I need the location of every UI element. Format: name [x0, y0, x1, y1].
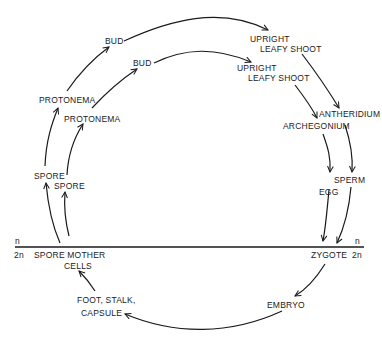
label-archegonium: ARCHEGONIUM	[283, 121, 350, 131]
cycle-arrows	[0, 0, 382, 340]
label-antheridium: ANTHERIDIUM	[319, 109, 380, 119]
haploid-label-right: n	[355, 236, 360, 246]
arrow-zygote-to-embryo	[295, 264, 325, 296]
label-protonema-inner: PROTONEMA	[64, 114, 120, 124]
label-bud-outer: BUD	[105, 36, 124, 46]
arrow-outer-protonema-to-bud	[67, 47, 109, 91]
diploid-label-right: 2n	[352, 250, 362, 260]
arrow-inner-protonema-to-bud	[92, 69, 137, 108]
diploid-label-left: 2n	[14, 250, 24, 260]
arrow-outer-smc-to-spore	[46, 183, 60, 243]
arrow-inner-smc-to-spore	[65, 192, 69, 236]
label-upright-outer-2: LEAFY SHOOT	[260, 44, 322, 54]
arrow-capsule-to-smc	[79, 271, 95, 291]
label-sperm: SPERM	[334, 175, 365, 185]
arrow-outer-spore-to-protonema	[45, 108, 58, 166]
label-upright-inner-2: LEAFY SHOOT	[248, 73, 310, 83]
arrow-outer-antheridium-to-sperm	[345, 125, 352, 172]
label-protonema-outer: PROTONEMA	[39, 95, 95, 105]
label-embryo: EMBRYO	[267, 300, 305, 310]
arrow-inner-bud-to-upright	[154, 51, 251, 63]
label-egg: EGG	[319, 187, 339, 197]
label-foot-stalk: FOOT, STALK,	[77, 295, 135, 305]
label-spore-inner: SPORE	[54, 181, 85, 191]
label-cells: CELLS	[64, 261, 92, 271]
arrow-inner-spore-to-protonema	[67, 124, 83, 175]
label-spore-mother: SPORE MOTHER	[34, 250, 105, 260]
arrow-embryo-to-capsule	[125, 311, 282, 329]
arrow-outer-bud-to-upright	[124, 17, 268, 41]
label-spore-outer: SPORE	[34, 171, 65, 181]
haploid-label-left: n	[15, 236, 20, 246]
arrow-outer-sperm-to-zygote	[337, 187, 351, 243]
label-upright-outer-1: UPRIGHT	[250, 34, 290, 44]
label-bud-inner: BUD	[133, 58, 152, 68]
label-zygote: ZYGOTE	[311, 250, 347, 260]
label-capsule: CAPSULE	[81, 308, 122, 318]
arrow-inner-upright-to-archegonium	[295, 85, 317, 118]
label-upright-inner-1: UPRIGHT	[237, 63, 277, 73]
arrow-inner-archegonium-to-egg	[323, 134, 330, 172]
moss-life-cycle-diagram: n 2n n 2n SPORE PROTONEMA BUD UPRIGHT LE…	[0, 0, 382, 340]
arrow-inner-egg-to-zygote	[323, 190, 329, 241]
